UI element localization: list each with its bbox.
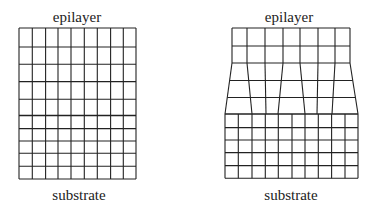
left-substrate-label: substrate	[52, 187, 106, 203]
left-epilayer-label: epilayer	[53, 9, 101, 25]
right-lattice-grid	[225, 28, 358, 178]
right-epilayer-distorted	[225, 63, 358, 114]
left-lattice-grid	[19, 28, 136, 179]
right-substrate	[225, 114, 358, 178]
right-substrate-label: substrate	[264, 187, 318, 203]
right-epilayer-label: epilayer	[265, 9, 313, 25]
right-epilayer-upper	[232, 28, 350, 63]
lattice-diagram: epilayer substrate epilayer substrate	[0, 0, 372, 209]
